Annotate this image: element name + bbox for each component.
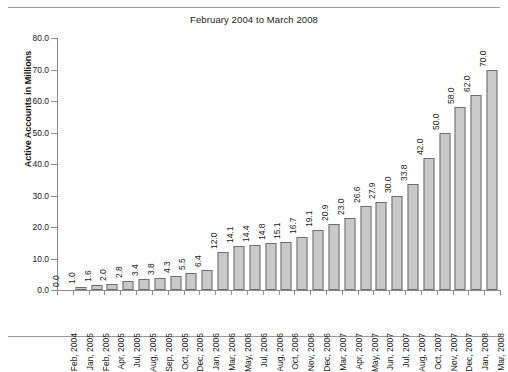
x-category-label: Jan, 2005 [85,333,95,370]
bar-slot: 14.1 [231,38,247,290]
bar [455,107,466,290]
x-category-label: Feb, 2005 [101,333,111,371]
bar-value-label: 4.3 [162,262,172,274]
x-category-label: Jun, 2007 [385,333,395,370]
bar-value-label: 50.0 [431,113,441,130]
bar-slot: 26.6 [358,38,374,290]
x-tick-mark [199,290,200,295]
bar-slot: 1.0 [73,38,89,290]
bar-value-label: 27.9 [367,183,377,200]
y-axis-label: Active Accounts in Millions [23,19,33,199]
bar-value-label: 12.0 [209,233,219,250]
y-tick-label: 20.0 [32,222,49,232]
bar-value-label: 3.8 [146,263,156,275]
x-category-label: Mar, 2006 [227,333,237,371]
x-tick-mark [263,290,264,295]
x-tick-mark [168,290,169,295]
y-tick-label: 40.0 [32,159,49,169]
x-category-label: Aug, 2005 [148,333,158,372]
x-category-label: Mar, 2007 [338,333,348,371]
bar-slot: 15.1 [279,38,295,290]
bar-slot: 4.3 [168,38,184,290]
bar-slot: 3.4 [136,38,152,290]
bar [344,218,355,290]
x-category-label: Jul, 2007 [401,333,411,368]
bar-value-label: 30.0 [383,176,393,193]
bar-slot: 5.5 [184,38,200,290]
x-category-label: Oct, 2005 [180,333,190,370]
bar-value-label: 5.5 [177,258,187,270]
x-category-label: Dec, 2007 [464,333,474,372]
bar-slot: 2.0 [104,38,120,290]
bar-value-label: 1.6 [83,270,93,282]
x-category-label: Dec, 2005 [195,333,205,372]
y-tick-label: 50.0 [32,128,49,138]
x-tick-mark [358,290,359,295]
x-category-label: Apr, 2007 [354,333,364,369]
bar [265,243,276,290]
y-tick-label: 10.0 [32,254,49,264]
bar-slot: 62.0 [468,38,484,290]
x-tick-mark [373,290,374,295]
x-category-label: Jan, 2008 [480,333,490,370]
bar-value-label: 1.0 [67,272,77,284]
x-tick-mark [104,290,105,295]
bar [423,158,434,290]
bar-slot: 20.9 [326,38,342,290]
x-tick-mark [310,290,311,295]
x-category-label: Jan, 2006 [211,333,221,370]
top-divider [8,7,500,8]
bar [139,279,150,290]
bar-value-label: 23.0 [336,198,346,215]
x-tick-mark [89,290,90,295]
bar-value-label: 70.0 [478,50,488,67]
bar [249,245,260,290]
bar [75,287,86,290]
bar [360,206,371,290]
bar-value-label: 14.8 [257,224,267,241]
x-category-label: May, 2007 [370,333,380,372]
bar-slot: 27.9 [373,38,389,290]
bar [407,184,418,290]
bar-value-label: 15.1 [272,223,282,240]
y-tick-label: 30.0 [32,191,49,201]
bar-value-label: 16.7 [288,218,298,235]
y-tick-label: 60.0 [32,96,49,106]
x-category-label: Nov, 2006 [306,333,316,371]
bar [487,70,498,291]
bar-slot: 42.0 [421,38,437,290]
bar-slot: 3.8 [152,38,168,290]
x-tick-mark [437,290,438,295]
bar-value-label: 6.4 [193,255,203,267]
bar [233,246,244,290]
x-tick-mark [500,290,501,295]
bar-value-label: 14.4 [241,225,251,242]
bar-slot: 6.4 [199,38,215,290]
y-tick-label: 0.0 [37,285,49,295]
bar-value-label: 19.1 [304,210,314,227]
bar [281,242,292,290]
bar [218,252,229,290]
bar [91,285,102,290]
x-category-label: Nov, 2007 [449,333,459,371]
bar-value-label: 62.0 [462,75,472,92]
x-category-label: Feb, 2004 [69,333,79,371]
bar [170,276,181,290]
x-tick-mark [247,290,248,295]
bar [123,281,134,290]
x-category-label: Dec, 2006 [322,333,332,372]
x-tick-mark [484,290,485,295]
bar-slot: 16.7 [294,38,310,290]
x-category-label: May, 2006 [243,333,253,372]
y-tick-label: 70.0 [32,65,49,75]
bar-value-label: 2.8 [114,266,124,278]
bar [313,230,324,290]
bar-slot: 12.0 [215,38,231,290]
x-tick-mark [421,290,422,295]
x-tick-mark [405,290,406,295]
x-category-label: Jul, 2005 [132,333,142,368]
x-category-label: Aug, 2007 [417,333,427,372]
x-tick-mark [326,290,327,295]
bar-slot: 70.0 [484,38,500,290]
bar-value-label: 33.8 [399,164,409,181]
